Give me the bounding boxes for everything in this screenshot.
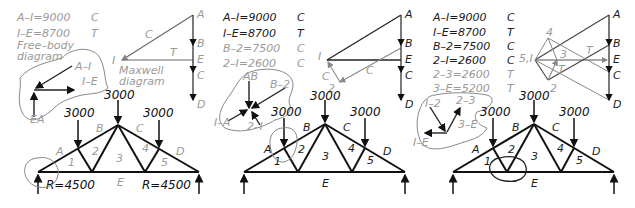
fbd-label-a-i: A–I [74,60,91,73]
maxwell-point-b: B [613,37,621,50]
free-body-label-line2: diagram [17,50,63,63]
zone-e: E [117,176,124,189]
load-left: 3000 [480,105,511,119]
equation-2-i-type: C [297,57,305,70]
panel-2: A–I=9000 C I–E=8700 T B–2=7500 C 2–I=260… [214,8,413,194]
zone-c: C [136,122,144,135]
equation-2-3: 2–3=2600 [433,68,490,81]
panel-1: A–I=9000 C I–E=8700 T Free–body diagram … [16,8,205,194]
fbd-label-i-e: I–E [82,75,98,88]
fbd-vector-a-i [36,66,72,88]
maxwell-point-a: A [196,8,205,21]
maxwell-point-4: 4 [546,26,553,39]
maxwell-point-i: I [112,54,115,67]
equation-a-i-type: C [297,11,305,24]
maxwell-line-a-i [122,15,193,60]
zone-c: C [343,121,351,134]
equation-b-2: B–2=7500 [223,42,280,55]
maxwell-point-e: E [197,53,204,66]
equation-i-e-type: T [507,26,515,39]
equation-a-i: A–I=9000 [16,11,70,24]
maxwell-line-a-i [327,15,401,60]
maxwell-point-e: E [613,53,620,66]
maxwell-label-c-1: C [322,70,330,83]
zone-e: E [322,177,329,190]
load-center: 3000 [519,89,550,103]
maxwell-point-e: E [405,53,412,66]
zone-b: B [303,121,311,134]
equation-a-i: A–I=9000 [222,11,276,24]
zone-5: 5 [367,154,374,167]
equation-2-3-type: T [507,68,515,81]
maxwell-line-2-i [328,62,340,82]
maxwell-point-a: A [404,8,413,21]
equation-b-2-type: C [507,40,515,53]
equation-i-e-type: T [91,27,99,40]
equation-a-i-type: C [507,11,515,24]
maxwell-caption-line2: diagram [119,75,165,88]
load-right: 3000 [350,105,381,119]
zone-e: E [531,177,538,190]
maxwell-point-i: I [318,50,321,63]
equation-i-e-type: T [297,27,305,40]
maxwell-point-c: C [613,69,621,82]
zone-b: B [512,121,520,134]
equation-3-e-type: T [507,82,515,95]
zone-3: 3 [322,150,329,163]
equation-b-2: B–2=7500 [433,40,490,53]
zone-2: 2 [508,143,515,156]
maxwell-point-c: C [405,69,413,82]
equation-i-e: I–E=8700 [223,27,276,40]
zone-4: 4 [142,142,149,155]
zone-4: 4 [348,142,355,155]
load-left: 3000 [64,106,95,120]
maxwell-point-d: D [613,98,621,111]
fbd-label-ab: AB [242,70,258,83]
fbd-label-i-a: I–A [214,116,230,129]
zone-a: A [263,143,272,156]
maxwell-label-t-1: T [586,44,594,57]
fbd-label-2-3: 2–3 [456,94,476,107]
fbd-label-i-e: I–E [413,136,429,149]
zone-5: 5 [576,154,583,167]
zone-2: 2 [92,145,99,158]
fbd-label-3-e: 3–E [458,118,477,131]
maxwell-line-i-4 [535,38,548,60]
equation-b-2-type: C [297,42,305,55]
zone-1: 1 [274,155,281,168]
equation-2-i: 2–I=2600 [223,57,276,70]
maxwell-point-3: 3 [560,48,567,61]
fbd-vector-i-a [228,110,247,121]
maxwell-line-4-3 [548,38,557,60]
maxwell-label-c: C [145,28,153,41]
equation-2-i-type: C [507,54,515,67]
truss-analysis-figure: A–I=9000 C I–E=8700 T Free–body diagram … [0,0,635,208]
zone-d: D [383,145,391,158]
equation-2-i: 2–I=2600 [433,54,486,67]
zone-c: C [552,121,560,134]
fbd-vector-i-2 [430,107,445,131]
panel-3: A–I=9000 C I–E=8700 T B–2=7500 C 2–I=260… [413,8,621,194]
maxwell-point-b: B [405,37,413,50]
load-right: 3000 [559,105,590,119]
zone-1: 1 [68,156,75,169]
equation-a-i-type: C [91,11,99,24]
load-center: 3000 [310,89,341,103]
fbd-label-i-2: I–2 [425,97,441,110]
equation-a-i: A–I=9000 [432,11,486,24]
maxwell-point-b: B [197,37,205,50]
reaction-right: R=4500 [142,178,191,192]
zone-5: 5 [161,156,168,169]
reaction-left: R=4500 [46,178,95,192]
maxwell-point-d: D [405,98,413,111]
fbd-label-2-i: 2–I [247,120,263,133]
maxwell-label-t-2: T [558,63,566,76]
zone-d: D [176,145,184,158]
zone-3: 3 [116,152,123,165]
load-left: 3000 [271,105,302,119]
zone-a: A [55,145,64,158]
load-right: 3000 [143,106,174,120]
zone-d: D [592,145,600,158]
zone-3: 3 [531,150,538,163]
zone-b: B [96,122,104,135]
